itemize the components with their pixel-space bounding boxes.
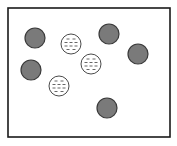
dashed-particle-3 — [49, 76, 69, 96]
dark-particle-3 — [99, 24, 119, 44]
dark-particle-5 — [97, 98, 117, 118]
dashed-particle-circle — [49, 76, 69, 96]
solid-particle-circle — [97, 98, 117, 118]
dark-particle-4 — [128, 44, 148, 64]
dark-particle-2 — [21, 60, 41, 80]
dashed-particle-1 — [61, 34, 81, 54]
solid-particle-circle — [128, 44, 148, 64]
dashed-particle-circle — [81, 54, 101, 74]
solid-particle-circle — [25, 28, 45, 48]
solid-particle-circle — [99, 24, 119, 44]
dashed-particle-circle — [61, 34, 81, 54]
solid-particle-circle — [21, 60, 41, 80]
particle-diagram — [0, 0, 177, 146]
dark-particle-1 — [25, 28, 45, 48]
dashed-particle-2 — [81, 54, 101, 74]
